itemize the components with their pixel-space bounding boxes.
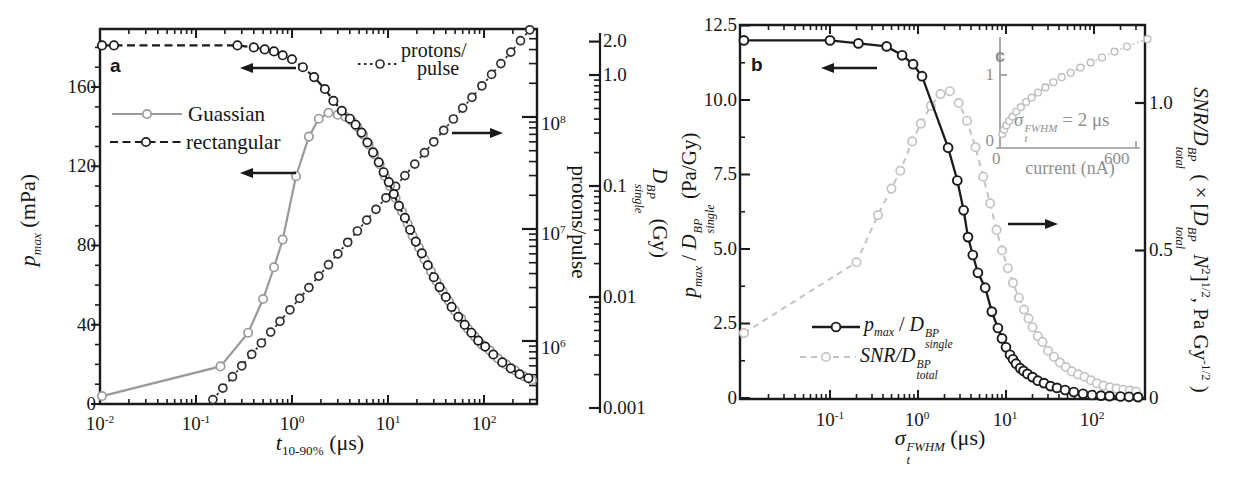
b-y-tick-0: 0 [691,388,737,408]
a-y-tick-40: 40 [50,315,96,335]
panel-b-y-axis-label: pmax / DBPsingle (Pa/Gy) [677,133,716,298]
b-snr-tick-0: 0 [1149,388,1159,408]
a-protons-tick-1e7: 107 [541,219,566,244]
a-x-tick-1e1: 101 [358,409,418,434]
panel-a-label: a [110,56,121,76]
legend-a-gaussian-label: Guassian [188,102,265,127]
inset-y-tick-0: 0 [976,131,994,151]
a-x-tick-1e-2: 10-2 [70,409,130,434]
b-x-tick-1e2: 102 [1062,405,1122,430]
d-axis-label: DBPsingle (Gy) [632,168,671,258]
a-x-tick-1e2: 102 [454,409,514,434]
a-protons-tick-1e8: 108 [541,109,566,134]
legend-a-rectangular-label: rectangular [186,130,280,155]
figure: a Guassian rectangular protons/ pulse 16… [0,0,1239,483]
panel-b-snr-axis-label: SNR/DBPtotal ( × [DBPtotal N2]1/2, Pa Gy… [1173,87,1212,392]
d-axis-tick-0.01: 0.01 [603,287,636,307]
b-y-tick-12.5: 12.5 [691,15,737,35]
legend-b-snr-label: SNR/DBPtotal [860,344,938,381]
b-y-tick-7.5: 7.5 [691,164,737,184]
protons-pulse-callout-line2: pulse [417,58,459,78]
d-axis-tick-2.0: 2.0 [603,31,627,51]
panel-a-x-axis-label: t10-90% (μs) [220,433,420,461]
d-axis-tick-0.1: 0.1 [603,176,627,196]
a-protons-tick-1e6: 106 [541,333,566,358]
a-y-tick-80: 80 [50,235,96,255]
inset-x-tick-0: 0 [992,149,1001,169]
panel-a-y-axis-label: pmax (mPa) [15,174,44,266]
panel-b-x-axis-label: σFWHMt (μs) [840,428,1040,466]
b-y-tick-10.0: 10.0 [691,90,737,110]
inset-c-label: c [995,46,1005,66]
a-y-tick-120: 120 [50,156,96,176]
inset-x-axis-label: current (nA) [1005,158,1135,178]
panel-b-label: b [751,55,763,75]
b-snr-tick-1.0: 1.0 [1149,93,1173,113]
b-y-tick-5.0: 5.0 [691,239,737,259]
panel-a-protons-axis-label: protons/pulse [566,165,591,278]
d-axis-tick-0.001: 0.001 [603,398,646,418]
a-x-tick-1e-1: 10-1 [166,409,226,434]
a-y-tick-160: 160 [50,77,96,97]
inset-y-tick-1: 1 [976,65,994,85]
b-snr-tick-0.5: 0.5 [1149,240,1173,260]
a-x-tick-1e0: 100 [262,409,322,434]
d-axis-tick-1.0: 1.0 [603,65,627,85]
inset-annotation: σFWHMt = 2 μs [1014,110,1109,143]
b-y-tick-2.5: 2.5 [691,313,737,333]
b-x-tick-1e-1: 10-1 [800,405,860,430]
